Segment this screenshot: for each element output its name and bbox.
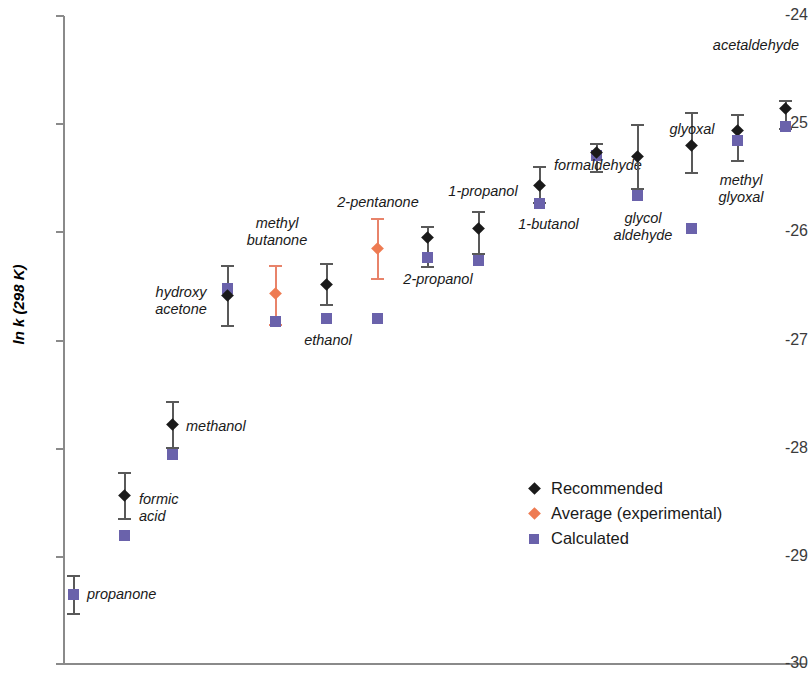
error-bar-cap: [371, 278, 384, 280]
data-point-calculated[interactable]: [270, 316, 281, 327]
y-tick-mark: [56, 663, 64, 665]
point-label-glycolaldehyde-line1: glycol: [598, 210, 688, 226]
data-point-calculated[interactable]: [732, 135, 743, 146]
error-bar-cap: [631, 124, 644, 126]
error-bar-cap: [118, 518, 131, 520]
y-tick-mark: [56, 340, 64, 342]
point-label-methylbutanone-line2: butanone: [234, 232, 320, 248]
error-bar-cap: [371, 218, 384, 220]
data-point-recommended[interactable]: [118, 489, 131, 502]
data-point-recommended[interactable]: [320, 278, 333, 291]
data-point-recommended[interactable]: [685, 139, 698, 152]
point-label-propanone: propanone: [87, 586, 156, 602]
data-point-recommended[interactable]: [166, 418, 179, 431]
error-bar-cap: [118, 472, 131, 474]
data-point-calculated[interactable]: [422, 252, 433, 263]
error-bar-cap: [685, 112, 698, 114]
error-bar-cap: [166, 401, 179, 403]
error-bar-cap: [269, 265, 282, 267]
y-tick-mark: [56, 123, 64, 125]
point-label-glyoxal: glyoxal: [649, 121, 735, 137]
y-axis-title: ln k (298 K): [10, 235, 27, 375]
legend: Recommended Average (experimental) Calcu…: [527, 476, 747, 551]
chart-canvas: -24 -25 -26 -27 -28 -29 -30 ln k (298 K)…: [0, 0, 808, 682]
legend-item-average-experimental[interactable]: Average (experimental): [527, 501, 747, 526]
data-point-calculated[interactable]: [372, 313, 383, 324]
diamond-marker-icon: [527, 476, 551, 501]
data-point-calculated[interactable]: [167, 449, 178, 460]
y-tick-label: -29: [770, 548, 808, 564]
point-label-hydroxyacetone-line1: hydroxy: [143, 284, 219, 300]
error-bar-cap: [221, 265, 234, 267]
y-tick-mark: [56, 448, 64, 450]
legend-item-calculated[interactable]: Calculated: [527, 526, 747, 551]
data-point-calculated[interactable]: [473, 255, 484, 266]
y-tick-label: -28: [770, 440, 808, 456]
y-tick-mark: [56, 15, 64, 17]
x-axis-line: [63, 663, 807, 665]
error-bar-cap: [421, 226, 434, 228]
error-bar-cap: [221, 325, 234, 327]
point-label-formic-acid-line1: formic: [139, 491, 178, 507]
data-point-average-experimental[interactable]: [269, 287, 282, 300]
data-point-calculated[interactable]: [534, 198, 545, 209]
error-bar-cap: [731, 160, 744, 162]
legend-label: Average (experimental): [551, 504, 722, 523]
point-label-methylglyoxal-line2: glyoxal: [698, 189, 784, 205]
error-bar-cap: [590, 143, 603, 145]
point-label-2-propanol: 2-propanol: [388, 271, 488, 287]
diamond-marker-icon: [527, 501, 551, 526]
data-point-calculated[interactable]: [321, 313, 332, 324]
legend-label: Recommended: [551, 479, 663, 498]
error-bar-cap: [731, 114, 744, 116]
data-point-recommended[interactable]: [779, 102, 792, 115]
error-bar-cap: [472, 211, 485, 213]
data-point-calculated[interactable]: [632, 190, 643, 201]
point-label-hydroxyacetone-line2: acetone: [143, 301, 219, 317]
error-bar-cap: [685, 172, 698, 174]
data-point-average-experimental[interactable]: [371, 242, 384, 255]
data-point-calculated[interactable]: [780, 121, 791, 132]
point-label-1-butanol: 1-butanol: [496, 216, 601, 232]
error-bar-cap: [320, 263, 333, 265]
data-point-calculated[interactable]: [686, 223, 697, 234]
error-bar-cap: [67, 613, 80, 615]
y-tick-mark: [56, 556, 64, 558]
y-tick-label: -30: [770, 655, 808, 671]
point-label-methylglyoxal-line1: methyl: [698, 172, 784, 188]
legend-label: Calculated: [551, 529, 629, 548]
error-bar-cap: [421, 266, 434, 268]
point-label-2-pentanone: 2-pentanone: [318, 194, 438, 210]
data-point-calculated[interactable]: [119, 530, 130, 541]
data-point-calculated[interactable]: [68, 589, 79, 600]
y-tick-label: -24: [770, 7, 808, 23]
point-label-ethanol: ethanol: [288, 332, 368, 348]
legend-item-recommended[interactable]: Recommended: [527, 476, 747, 501]
y-tick-label: -27: [770, 332, 808, 348]
error-bar-cap: [67, 575, 80, 577]
point-label-methanol: methanol: [186, 418, 246, 434]
data-point-recommended[interactable]: [421, 231, 434, 244]
point-label-formic-acid-line2: acid: [139, 508, 166, 524]
point-label-1-propanol: 1-propanol: [428, 183, 538, 199]
y-tick-label: -26: [770, 223, 808, 239]
data-point-recommended[interactable]: [472, 222, 485, 235]
square-marker-icon: [527, 526, 551, 551]
point-label-methylbutanone-line1: methyl: [234, 215, 320, 231]
y-tick-mark: [56, 231, 64, 233]
point-label-acetaldehyde: acetaldehyde: [705, 37, 807, 53]
point-label-glycolaldehyde-line2: aldehyde: [598, 227, 688, 243]
error-bar-cap: [320, 304, 333, 306]
